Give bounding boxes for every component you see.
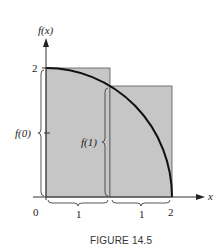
y-axis-label: f(x): [38, 24, 54, 37]
x-axis-arrow-icon: [196, 194, 205, 200]
figure-caption: FIGURE 14.5: [90, 235, 152, 246]
width-label-1: 1: [76, 208, 82, 220]
rectangle-1: [46, 68, 110, 197]
figure-canvas: f(x) 2 f(0) f(1) x 0 1 1 2 FIGURE 14.5: [0, 0, 221, 250]
brace-width-1: [48, 200, 108, 206]
y-tick-label-2: 2: [32, 62, 38, 74]
x-tick-label-2: 2: [168, 206, 174, 218]
brace-f0: [38, 70, 44, 196]
origin-label: 0: [33, 206, 39, 218]
x-axis-label: x: [207, 190, 213, 202]
y-axis-arrow-icon: [43, 38, 49, 47]
width-label-2: 1: [139, 208, 145, 220]
brace-width-2: [112, 200, 170, 206]
f1-label: f(1): [81, 136, 97, 149]
f0-label: f(0): [15, 127, 31, 140]
rectangle-2: [110, 86, 172, 197]
